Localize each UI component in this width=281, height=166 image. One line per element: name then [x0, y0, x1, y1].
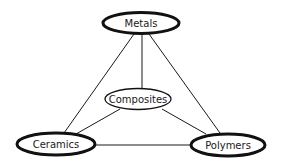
- edge-metals-ceramics: [64, 34, 134, 133]
- materials-diagram: Metals Composites Ceramics Polymers: [0, 0, 281, 166]
- edge-composites-polymers: [162, 109, 206, 134]
- node-metals-label: Metals: [125, 18, 158, 29]
- node-metals: Metals: [103, 13, 179, 34]
- edge-metals-polymers: [149, 34, 220, 133]
- edge-composites-ceramics: [76, 109, 120, 134]
- node-composites-label: Composites: [109, 94, 168, 105]
- node-ceramics-label: Ceramics: [33, 139, 80, 150]
- node-polymers: Polymers: [191, 134, 265, 156]
- node-composites: Composites: [105, 89, 171, 110]
- node-polymers-label: Polymers: [205, 140, 251, 151]
- node-ceramics: Ceramics: [17, 133, 95, 155]
